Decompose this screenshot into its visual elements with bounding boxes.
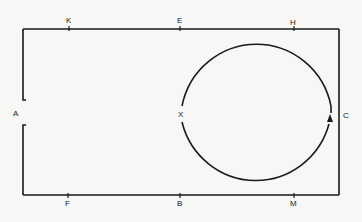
left-edge-lower: [23, 125, 26, 195]
label-H: H: [290, 18, 296, 27]
label-M: M: [290, 199, 297, 208]
label-A: A: [13, 109, 19, 118]
label-F: F: [65, 199, 70, 208]
left-edge-upper: [23, 29, 26, 100]
label-K: K: [66, 16, 72, 25]
arrowhead-up-icon: [327, 114, 333, 122]
label-E: E: [177, 16, 182, 25]
circle-path: [182, 44, 331, 180]
label-C: C: [343, 111, 349, 120]
label-B: B: [177, 199, 182, 208]
diagram-canvas: K E H A X C F B M: [0, 0, 362, 222]
circle-upper-arc: [182, 44, 331, 106]
label-X: X: [178, 110, 184, 119]
circle-lower-arc: [182, 122, 329, 180]
